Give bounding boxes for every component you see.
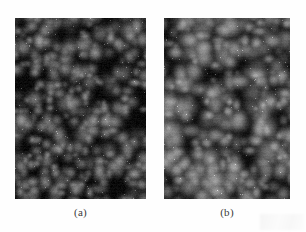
micrograph-image-b: [164, 18, 290, 199]
micrograph-panel-b: [164, 18, 290, 199]
panel-caption-b: (b): [164, 204, 290, 220]
panel-caption-a: (a): [15, 204, 146, 220]
figure-root: (a) (b): [0, 0, 306, 232]
micrograph-panel-a: [15, 18, 146, 199]
micrograph-image-a: [15, 18, 146, 199]
